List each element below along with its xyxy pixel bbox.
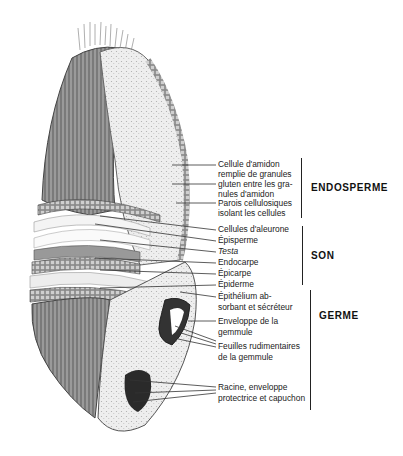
label-epicarpe: Épicarpe — [218, 268, 251, 279]
group-title-son: SON — [311, 250, 334, 261]
label-enveloppe-gemmule-2: gemmule — [218, 327, 252, 338]
group-title-germe: GERME — [319, 310, 359, 321]
label-racine-2: protectrice et capuchon — [218, 393, 305, 404]
label-parois-2: isolant les cellules — [218, 208, 286, 219]
label-feuilles-2: de la gemmule — [218, 352, 273, 363]
label-epiderme: Épiderme — [218, 279, 254, 290]
endosperm-bracket — [301, 158, 302, 218]
label-endocarpe: Endocarpe — [218, 257, 259, 268]
wheat-grain-illustration — [0, 0, 403, 456]
label-epithelium: Épithélium ab- — [218, 291, 272, 302]
bran-bracket — [302, 226, 303, 285]
label-racine: Racine, enveloppe — [218, 382, 287, 393]
label-enveloppe-gemmule: Enveloppe de la — [218, 316, 278, 327]
label-feuilles: Feuilles rudimentaires — [218, 341, 300, 352]
germ-bracket — [310, 290, 311, 410]
pericarp-lower — [32, 298, 110, 418]
label-aleurone: Cellules d'aleurone — [218, 224, 289, 235]
label-episperme: Épisperme — [218, 235, 258, 246]
label-epithelium-2: sorbant et sécréteur — [218, 302, 292, 313]
label-testa: Testa — [218, 246, 238, 257]
group-title-endosperme: ENDOSPERME — [311, 182, 388, 193]
